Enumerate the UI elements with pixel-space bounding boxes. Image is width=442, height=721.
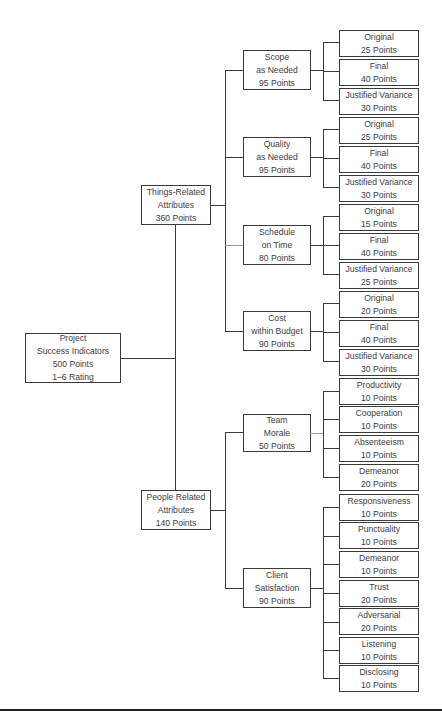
leaf-node-punctuality: Punctuality 10 Points [339,522,419,549]
connector-people-to-bus [210,510,226,511]
category-points: 95 Points [259,164,295,177]
leaf-node-adversarial: Adversarial 20 Points [339,608,419,635]
leaf-points: 10 Points [361,392,397,405]
connector-leaf [323,100,339,101]
group-points: 360 Points [156,212,197,225]
connector-leaf [323,216,339,217]
connector-leaf [323,361,339,362]
category-points: 90 Points [259,338,295,351]
root-title: Project [60,332,87,345]
leaf-points: 20 Points [361,478,397,491]
connector-schedule-to-leaves [310,245,324,246]
leaf-node-cost-justified-variance: Justified Variance 30 Points [339,349,419,376]
category-points: 50 Points [259,440,295,453]
connector-bus-to-team-morale [225,432,243,433]
category-node-schedule: Schedule on Time 80 Points [243,225,311,265]
leaf-label: Original [364,292,394,305]
root-points: 500 Points [53,358,94,371]
leaf-points: 10 Points [361,651,397,664]
connector-leaf [323,71,339,72]
connector-leaf [323,536,339,537]
connector-root-to-bus [121,358,176,359]
leaf-label: Original [364,118,394,131]
connector-leaf [323,507,339,508]
category-title: Team [266,414,287,427]
connector-leaf [323,332,339,333]
leaf-points: 40 Points [361,247,397,260]
category-subtitle: within Budget [251,325,303,338]
leaf-points: 25 Points [361,276,397,289]
leaf-label: Responsiveness [347,495,410,508]
leaf-node-scope-original: Original 25 Points [339,30,419,57]
leaf-points: 30 Points [361,102,397,115]
category-points: 90 Points [259,595,295,608]
leaf-label: Justified Variance [345,89,412,102]
connector-leaf [323,303,339,304]
leaf-label: Justified Variance [345,176,412,189]
category-node-quality: Quality as Needed 95 Points [243,137,311,177]
leaf-label: Demeanor [359,552,399,565]
group-title: People Related [147,491,206,504]
leaf-node-disclosing: Disclosing 10 Points [339,665,419,692]
connector-leaf [323,477,339,478]
category-node-team-morale: Team Morale 50 Points [243,414,311,452]
leaf-node-schedule-original: Original 15 Points [339,204,419,231]
leaf-node-quality-final: Final 40 Points [339,146,419,173]
leaf-points: 25 Points [361,131,397,144]
category-points: 80 Points [259,252,295,265]
connector-cost-to-leaves [310,331,324,332]
category-title: Cost [268,312,286,325]
leaf-node-quality-original: Original 25 Points [339,117,419,144]
leaf-node-productivity: Productivity 10 Points [339,378,419,405]
leaf-points: 10 Points [361,449,397,462]
category-points: 95 Points [259,77,295,90]
leaf-label: Original [364,205,394,218]
connector-main-bus [175,224,176,490]
leaf-label: Justified Variance [345,350,412,363]
connector-people-bus [225,432,226,589]
connector-leaf [323,650,339,651]
leaf-label: Final [370,147,389,160]
category-node-client-satisfaction: Client Satisfaction 90 Points [243,568,311,608]
connector-leaf [323,391,339,392]
leaf-points: 20 Points [361,594,397,607]
connector-leaf [323,593,339,594]
connector-bus-to-scope [225,70,243,71]
leaf-node-cost-original: Original 20 Points [339,291,419,318]
leaf-label: Final [370,60,389,73]
category-node-scope: Scope as Needed 95 Points [243,50,311,90]
connector-leaf [323,42,339,43]
leaf-points: 10 Points [361,565,397,578]
leaf-label: Absenteeism [354,436,404,449]
leaf-label: Final [370,234,389,247]
category-subtitle: Satisfaction [255,582,299,595]
category-title: Quality [264,138,291,151]
category-title: Client [266,569,288,582]
connector-leaf [323,129,339,130]
group-title: Things-Related [147,186,205,199]
leaf-label: Original [364,31,394,44]
leaf-points: 25 Points [361,44,397,57]
category-subtitle: as Needed [256,64,298,77]
leaf-node-scope-justified-variance: Justified Variance 30 Points [339,88,419,115]
leaf-label: Justified Variance [345,263,412,276]
group-points: 140 Points [156,517,197,530]
leaf-node-schedule-justified-variance: Justified Variance 25 Points [339,262,419,289]
group-subtitle: Attributes [158,199,194,212]
leaf-node-listening: Listening 10 Points [339,637,419,664]
category-subtitle: Morale [264,427,290,440]
leaf-node-responsiveness: Responsiveness 10 Points [339,494,419,521]
footer-divider [0,709,442,711]
leaf-label: Demeanor [359,465,399,478]
root-rating: 1–6 Rating [52,371,94,384]
leaf-points: 40 Points [361,73,397,86]
leaf-points: 10 Points [361,420,397,433]
root-node-project-success-indicators: Project Success Indicators 500 Points 1–… [25,333,121,383]
leaf-label: Productivity [357,379,401,392]
connector-leaf [323,678,339,679]
connector-scope-to-leaves [310,70,324,71]
connector-team-morale-to-leaves [310,433,324,434]
leaf-points: 10 Points [361,536,397,549]
category-title: Scope [265,51,289,64]
category-subtitle: on Time [262,239,293,252]
